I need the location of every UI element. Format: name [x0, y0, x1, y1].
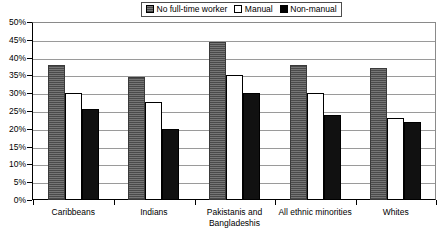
bar-groups: [33, 22, 436, 200]
bar-1[interactable]: [48, 65, 65, 200]
bar-3[interactable]: [324, 115, 341, 200]
x-axis-category-label: Indians: [114, 207, 195, 229]
bar-1[interactable]: [128, 77, 145, 200]
y-axis-tick-label: 30%: [0, 89, 26, 98]
legend-label: No full-time worker: [157, 4, 228, 14]
x-axis-category-label: Caribbeans: [33, 207, 114, 229]
x-axis-category-label: All ethnic minorities: [275, 207, 356, 229]
y-axis-tick-mark: [27, 200, 32, 201]
x-axis-tick-mark: [195, 200, 196, 205]
x-axis-category-label: Pakistanis and Bangladeshis: [194, 207, 275, 229]
legend-label: Manual: [245, 4, 273, 14]
x-axis-tick-mark: [436, 200, 437, 205]
bar-1[interactable]: [370, 68, 387, 200]
bar-2[interactable]: [226, 75, 243, 200]
y-axis-tick-label: 25%: [0, 107, 26, 116]
bar-1[interactable]: [290, 65, 307, 200]
y-axis-tick-label: 40%: [0, 54, 26, 63]
hatched-gray-swatch-icon: [146, 5, 154, 13]
chart-legend: No full-time worker Manual Non-manual: [141, 2, 342, 17]
y-axis-tick-label: 20%: [0, 125, 26, 134]
y-axis-tick-label: 5%: [0, 178, 26, 187]
x-axis-tick-mark: [356, 200, 357, 205]
legend-label: Non-manual: [290, 4, 336, 14]
bar-3[interactable]: [82, 109, 99, 200]
x-axis-tick-mark: [33, 200, 34, 205]
x-axis-ticks: [33, 200, 436, 205]
bar-2[interactable]: [307, 93, 324, 200]
legend-item-manual: Manual: [234, 4, 272, 14]
bar-3[interactable]: [404, 122, 421, 200]
black-swatch-icon: [280, 5, 288, 13]
bar-group: [33, 22, 114, 200]
y-axis-tick-label: 15%: [0, 143, 26, 152]
chart-root: No full-time worker Manual Non-manual 50…: [0, 0, 441, 238]
bar-3[interactable]: [162, 129, 179, 200]
bar-3[interactable]: [243, 93, 260, 200]
y-axis-tick-label: 10%: [0, 160, 26, 169]
y-axis-tick-label: 50%: [0, 18, 26, 27]
y-axis-tick-label: 45%: [0, 36, 26, 45]
bar-group: [194, 22, 275, 200]
legend-item-non-manual: Non-manual: [280, 4, 337, 14]
bar-2[interactable]: [387, 118, 404, 200]
legend-item-no-full-time-worker: No full-time worker: [146, 4, 227, 14]
bar-2[interactable]: [145, 102, 162, 200]
white-swatch-icon: [234, 5, 242, 13]
bar-group: [275, 22, 356, 200]
bar-1[interactable]: [209, 42, 226, 200]
x-axis-labels: CaribbeansIndiansPakistanis and Banglade…: [33, 207, 436, 229]
bar-group: [355, 22, 436, 200]
x-axis-tick-mark: [275, 200, 276, 205]
bar-group: [114, 22, 195, 200]
y-axis-tick-label: 0%: [0, 196, 26, 205]
bar-2[interactable]: [65, 93, 82, 200]
x-axis-category-label: Whites: [355, 207, 436, 229]
x-axis-tick-mark: [114, 200, 115, 205]
y-axis-tick-label: 35%: [0, 71, 26, 80]
